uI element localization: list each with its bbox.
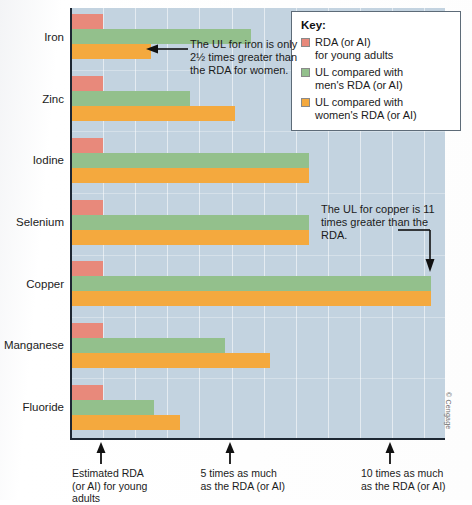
grid-separator: [72, 378, 445, 379]
category-label-iodine: Iodine: [33, 154, 64, 166]
bar-fluoride-ul-men: [72, 400, 154, 415]
bar-iodine-rda: [72, 138, 103, 153]
legend-label-rda: RDA (or AI)for young adults: [315, 36, 393, 61]
category-axis-labels: IronZincIodineSeleniumCopperManganeseFlu…: [0, 8, 66, 440]
legend-key-box: Key: RDA (or AI)for young adultsUL compa…: [291, 11, 461, 131]
legend-items: RDA (or AI)for young adultsUL compared w…: [301, 36, 451, 121]
category-label-iron: Iron: [44, 31, 64, 43]
legend-swatch-ul-women: [301, 98, 310, 107]
grid-separator: [72, 255, 445, 256]
x-axis-caption-5x: 5 times as muchas the RDA (or AI): [201, 467, 311, 492]
legend-item-rda: RDA (or AI)for young adults: [301, 36, 451, 61]
bar-selenium-ul-women: [72, 230, 309, 245]
legend-title: Key:: [301, 19, 451, 31]
bar-fluoride-rda: [72, 385, 103, 400]
grid-separator: [72, 193, 445, 194]
bar-selenium-rda: [72, 200, 103, 215]
bar-fluoride-ul-women: [72, 415, 180, 430]
bar-zinc-ul-women: [72, 106, 235, 121]
bar-selenium-ul-men: [72, 215, 309, 230]
category-label-zinc: Zinc: [42, 93, 64, 105]
bar-zinc-rda: [72, 76, 103, 91]
category-label-selenium: Selenium: [16, 216, 64, 228]
bar-copper-ul-men: [72, 276, 431, 291]
grid-separator: [72, 317, 445, 318]
annotation-copper: The UL for copper is 11 times greater th…: [321, 203, 443, 242]
bar-copper-rda: [72, 261, 103, 276]
x-axis-caption-1x: Estimated RDA(or AI) for youngadults: [72, 467, 182, 505]
bar-copper-ul-women: [72, 291, 431, 306]
legend-item-ul-women: UL compared withwomen's RDA (or AI): [301, 96, 451, 121]
category-label-fluoride: Fluoride: [22, 401, 64, 413]
category-label-copper: Copper: [26, 278, 64, 290]
bar-zinc-ul-men: [72, 91, 190, 106]
grid-separator: [72, 131, 445, 132]
bar-manganese-rda: [72, 323, 103, 338]
bar-iodine-ul-men: [72, 153, 309, 168]
legend-label-ul-women: UL compared withwomen's RDA (or AI): [315, 96, 417, 121]
x-axis-caption-10x: 10 times as muchas the RDA (or AI): [361, 467, 471, 492]
category-label-manganese: Manganese: [4, 339, 64, 351]
bar-iron-ul-women: [72, 44, 151, 59]
legend-item-ul-men: UL compared withmen's RDA (or AI): [301, 66, 451, 91]
credit-text: © Cengage: [445, 392, 452, 429]
annotation-iron: The UL for iron is only 2½ times greater…: [190, 38, 315, 77]
bar-manganese-ul-women: [72, 353, 270, 368]
bar-iron-rda: [72, 14, 103, 29]
bar-iodine-ul-women: [72, 168, 309, 183]
x-axis-captions: Estimated RDA(or AI) for youngadults5 ti…: [0, 443, 472, 500]
legend-label-ul-men: UL compared withmen's RDA (or AI): [315, 66, 403, 91]
bar-manganese-ul-men: [72, 338, 225, 353]
